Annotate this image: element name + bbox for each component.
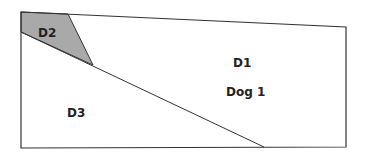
- region-diagram: D2 D1 Dog 1 D3: [0, 0, 369, 160]
- label-d3: D3: [67, 106, 85, 120]
- label-dog1: Dog 1: [226, 85, 265, 99]
- label-d1: D1: [233, 56, 251, 70]
- label-d2: D2: [38, 26, 56, 40]
